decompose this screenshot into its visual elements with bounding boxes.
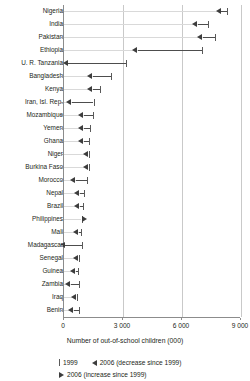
category-label-ethiopia: Ethiopia [40, 47, 63, 53]
category-tick [61, 167, 63, 168]
marker-2006-decrease [66, 99, 71, 105]
category-tick [61, 115, 63, 116]
x-tick-0 [63, 318, 64, 320]
category-tick [61, 193, 63, 194]
chart-legend: 1999 2006 (decrease since 1999) 2006 (in… [59, 357, 181, 380]
category-label-zambia: Zambia [42, 281, 63, 287]
category-tick [61, 128, 63, 129]
x-tick-6000 [181, 318, 182, 320]
category-tick [61, 310, 63, 311]
change-connector [72, 102, 94, 103]
marker-1999 [84, 190, 85, 197]
category-label-pakistan: Pakistan [38, 34, 63, 40]
marker-2006-decrease [70, 268, 75, 274]
marker-2006-decrease [78, 112, 83, 118]
x-tick-label-3000: 3 000 [114, 322, 131, 329]
legend-1999-marker-icon [59, 359, 60, 366]
marker-1999 [89, 164, 90, 171]
category-tick [61, 271, 63, 272]
legend-label-1999: 1999 [63, 359, 78, 366]
category-label-burkina-faso: Burkina Faso [25, 164, 63, 170]
marker-1999 [81, 229, 82, 236]
category-tick [61, 206, 63, 207]
marker-2006-decrease [197, 34, 202, 40]
marker-1999 [77, 294, 78, 301]
marker-2006-decrease [65, 281, 70, 287]
marker-2006-decrease [83, 164, 88, 170]
marker-2006-decrease [70, 177, 75, 183]
category-label-senegal: Senegal [40, 255, 63, 261]
row-guide-line [64, 219, 81, 220]
marker-1999 [89, 138, 90, 145]
category-tick [61, 180, 63, 181]
legend-decrease-arrow-icon [92, 360, 97, 366]
marker-2006-decrease [68, 307, 73, 313]
change-connector [65, 245, 82, 246]
category-tick [61, 102, 63, 103]
marker-2006-decrease [132, 47, 137, 53]
marker-2006-decrease [87, 86, 92, 92]
marker-1999 [208, 21, 209, 28]
category-label-mozambique: Mozambique [26, 112, 63, 118]
marker-1999 [79, 255, 80, 262]
change-connector [68, 63, 126, 64]
marker-2006-decrease [192, 21, 197, 27]
marker-2006-decrease [78, 125, 83, 131]
marker-1999 [100, 86, 101, 93]
category-tick [61, 37, 63, 38]
change-connector [71, 284, 79, 285]
change-connector [76, 180, 87, 181]
marker-1999 [83, 203, 84, 210]
x-axis-title: Number of out-of-school children (000) [0, 337, 250, 344]
marker-2006-decrease [63, 60, 68, 66]
marker-2006-decrease [216, 8, 221, 14]
marker-2006-decrease [83, 151, 88, 157]
marker-2006-decrease [71, 294, 76, 300]
category-label-nigeria: Nigeria [43, 8, 63, 14]
category-tick [61, 297, 63, 298]
marker-1999 [126, 60, 127, 67]
marker-1999 [89, 151, 90, 158]
marker-1999 [82, 242, 83, 249]
legend-label-2006-decrease: 2006 (decrease since 1999) [100, 359, 182, 366]
category-tick [61, 50, 63, 51]
category-label-iran-isl-rep: Iran, Isl. Rep. [25, 99, 63, 105]
category-tick [61, 24, 63, 25]
category-tick [61, 154, 63, 155]
category-tick [61, 245, 63, 246]
marker-1999 [202, 47, 203, 54]
marker-1999 [227, 8, 228, 15]
category-tick [61, 11, 63, 12]
change-connector [198, 24, 208, 25]
row-guide-line [64, 11, 226, 12]
marker-1999 [215, 34, 216, 41]
marker-1999 [111, 73, 112, 80]
marker-2006-decrease [74, 203, 79, 209]
marker-1999 [94, 99, 95, 106]
category-tick [61, 258, 63, 259]
category-label-madagascar: Madagascar [28, 242, 63, 248]
x-tick-label-9000: 9 000 [232, 322, 249, 329]
marker-1999 [93, 112, 94, 119]
category-label-guinea: Guinea [42, 268, 63, 274]
marker-2006-decrease [78, 138, 83, 144]
gridline-9000 [241, 5, 242, 317]
marker-1999 [87, 177, 88, 184]
category-tick [61, 141, 63, 142]
marker-1999 [79, 307, 80, 314]
x-tick-3000 [122, 318, 123, 320]
legend-row-second: 2006 (increase since 1999) [59, 369, 181, 380]
change-connector [84, 115, 93, 116]
x-tick-label-0: 0 [61, 322, 65, 329]
legend-label-2006-increase: 2006 (increase since 1999) [67, 371, 147, 378]
category-label-bangladesh: Bangladesh [29, 73, 63, 79]
row-guide-line [64, 37, 214, 38]
row-guide-line [64, 24, 207, 25]
chart-root: NigeriaIndiaPakistanEthiopiaU. R. Tanzan… [0, 0, 250, 381]
category-tick [61, 232, 63, 233]
marker-2006-increase [82, 216, 87, 222]
category-tick [61, 219, 63, 220]
legend-row-first: 1999 2006 (decrease since 1999) [59, 357, 181, 368]
change-connector [138, 50, 202, 51]
change-connector [203, 37, 216, 38]
